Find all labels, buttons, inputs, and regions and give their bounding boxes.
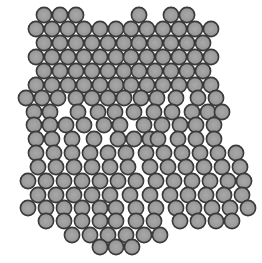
particle: [187, 21, 202, 36]
particle: [195, 35, 210, 50]
particle: [171, 49, 186, 64]
particle: [236, 173, 251, 188]
particle: [147, 63, 162, 78]
particle: [84, 35, 99, 50]
particle: [20, 200, 35, 215]
particle: [64, 227, 79, 242]
particle: [64, 145, 79, 160]
particle: [190, 213, 205, 228]
particle: [136, 117, 151, 132]
particle: [155, 49, 170, 64]
particle: [92, 213, 107, 228]
particle: [100, 63, 115, 78]
particle: [28, 49, 43, 64]
particle: [128, 213, 143, 228]
particle: [56, 173, 71, 188]
particle: [36, 7, 51, 22]
particle: [60, 21, 75, 36]
particle: [52, 35, 67, 50]
particle: [50, 90, 65, 105]
particle: [108, 239, 123, 254]
particle: [26, 117, 41, 132]
particle: [112, 117, 127, 132]
particle: [56, 213, 71, 228]
particle: [133, 90, 148, 105]
particle: [163, 63, 178, 78]
particle: [92, 49, 107, 64]
particle: [195, 63, 210, 78]
particle: [52, 63, 67, 78]
particle: [74, 213, 89, 228]
particle: [203, 21, 218, 36]
particle: [68, 35, 83, 50]
particle: [131, 7, 146, 22]
particle: [44, 21, 59, 36]
particle: [20, 173, 35, 188]
particle: [30, 159, 45, 174]
particle: [163, 7, 178, 22]
particle: [28, 145, 43, 160]
particle: [124, 239, 139, 254]
particle: [38, 213, 53, 228]
particle: [138, 145, 153, 160]
particle: [187, 49, 202, 64]
particle: [154, 117, 169, 132]
particle: [76, 49, 91, 64]
particle: [210, 145, 225, 160]
particle: [149, 90, 164, 105]
particle: [178, 159, 193, 174]
particle: [34, 90, 49, 105]
particle: [28, 21, 43, 36]
particle: [147, 35, 162, 50]
particle: [179, 63, 194, 78]
particle: [86, 131, 101, 146]
particle: [224, 213, 239, 228]
particle: [139, 21, 154, 36]
particle: [232, 159, 247, 174]
particle: [170, 131, 185, 146]
particle: [96, 117, 111, 132]
particle: [68, 7, 83, 22]
particle: [150, 131, 165, 146]
particle: [188, 131, 203, 146]
particle: [120, 159, 135, 174]
particle: [128, 173, 143, 188]
particle: [123, 49, 138, 64]
particle: [64, 131, 79, 146]
particle: [76, 117, 91, 132]
particle: [156, 145, 171, 160]
particle: [58, 117, 73, 132]
particle: [152, 227, 167, 242]
particle: [136, 227, 151, 242]
particle: [100, 35, 115, 50]
particle: [68, 63, 83, 78]
particle: [139, 49, 154, 64]
particle: [102, 159, 117, 174]
particle: [171, 21, 186, 36]
particle: [214, 159, 229, 174]
particle: [82, 145, 97, 160]
particle: [192, 145, 207, 160]
particle: [196, 159, 211, 174]
particle: [100, 145, 115, 160]
particle: [42, 117, 57, 132]
particle: [76, 21, 91, 36]
particle: [92, 21, 107, 36]
particle: [36, 63, 51, 78]
particle: [208, 90, 223, 105]
particle: [163, 35, 178, 50]
particle: [148, 173, 163, 188]
particle: [38, 173, 53, 188]
particle: [116, 63, 131, 78]
particle: [190, 90, 205, 105]
particle: [155, 21, 170, 36]
particle: [84, 90, 99, 105]
particle: [146, 213, 161, 228]
particle: [172, 213, 187, 228]
particle: [179, 7, 194, 22]
particle: [174, 145, 189, 160]
particle: [52, 7, 67, 22]
particle: [126, 131, 141, 146]
particle: [202, 173, 217, 188]
particle: [74, 173, 89, 188]
